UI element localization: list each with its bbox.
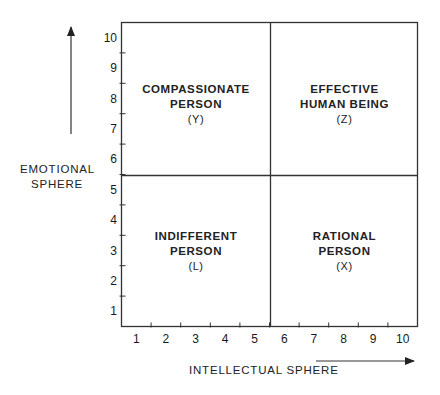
y-tick-label: 6: [97, 153, 117, 165]
y-tick-label: 5: [97, 184, 117, 196]
x-tick-label: 5: [245, 333, 265, 345]
x-tick-label: 3: [186, 333, 206, 345]
quadrant-effective-human-being: EFFECTIVE HUMAN BEING (Z): [271, 82, 418, 127]
plot-frame: [122, 23, 418, 327]
y-tick-label: 4: [97, 214, 117, 226]
y-tick-label: 1: [97, 305, 117, 317]
x-tick-label: 8: [334, 333, 354, 345]
y-axis-title: EMOTIONAL SPHERE: [20, 162, 94, 192]
quadrant-indifferent-person: INDIFFERENT PERSON (L): [121, 229, 271, 274]
y-tick-label: 8: [97, 93, 117, 105]
x-axis-title: INTELLECTUAL SPHERE: [189, 364, 339, 376]
y-tick-label: 10: [97, 32, 117, 44]
y-tick-label: 9: [97, 62, 117, 74]
y-tick-label: 2: [97, 275, 117, 287]
x-tick-label: 10: [393, 333, 413, 345]
x-tick-label: 2: [156, 333, 176, 345]
y-tick-label: 7: [97, 123, 117, 135]
y-axis-title-line2: SPHERE: [20, 177, 94, 192]
quadrant-compassionate-person: COMPASSIONATE PERSON (Y): [121, 82, 271, 127]
x-tick-label: 9: [363, 333, 383, 345]
x-tick-label: 1: [126, 333, 146, 345]
x-tick-label: 6: [274, 333, 294, 345]
x-tick-label: 7: [304, 333, 324, 345]
y-axis-title-line1: EMOTIONAL: [20, 162, 94, 177]
x-tick-label: 4: [215, 333, 235, 345]
quadrant-rational-person: RATIONAL PERSON (X): [271, 229, 418, 274]
y-tick-label: 3: [97, 245, 117, 257]
